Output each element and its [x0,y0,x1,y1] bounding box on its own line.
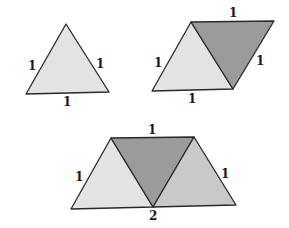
label-right: 1 [96,57,104,71]
label-bottom: 2 [149,209,157,223]
label-left: 1 [154,56,162,70]
diagram-svg: 1 1 1 1 1 1 1 1 1 1 2 [0,0,289,228]
label-right: 1 [256,54,264,68]
label-bottom: 1 [63,95,71,109]
label-left: 1 [28,59,36,73]
label-bottom: 1 [188,92,196,106]
label-top: 1 [148,123,156,137]
label-top: 1 [229,6,237,20]
label-right: 1 [221,167,229,181]
label-left: 1 [75,170,83,184]
diagram-canvas: 1 1 1 1 1 1 1 1 1 1 2 [0,0,289,228]
figure-trapezoid: 1 1 1 2 [71,123,236,223]
figure-single-triangle: 1 1 1 [26,24,109,109]
figure-rhombus: 1 1 1 1 [152,6,274,106]
